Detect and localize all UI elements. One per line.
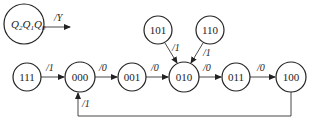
state-100: 100 xyxy=(276,62,306,92)
state-diagram: Q2Q1Q0 /Y /1 /0 /0 /1 /1 /0 /0 /1 111 00… xyxy=(0,0,311,122)
edge-label-011-100: /0 xyxy=(256,62,265,73)
state-110: 110 xyxy=(196,16,224,44)
state-label: 011 xyxy=(228,71,244,83)
edge-label-101-010: /1 xyxy=(171,42,180,53)
edge-label-001-010: /0 xyxy=(150,62,159,73)
edge-110-010 xyxy=(191,43,203,63)
state-label: 001 xyxy=(124,71,141,83)
state-label: 100 xyxy=(283,71,300,83)
state-label: 010 xyxy=(176,71,193,83)
legend-state-label: Q2Q1Q0 xyxy=(11,18,46,32)
edge-label-110-010: /1 xyxy=(202,47,211,58)
legend: Q2Q1Q0 /Y xyxy=(4,4,70,44)
edge-100-000 xyxy=(78,92,291,116)
state-011: 011 xyxy=(222,63,250,91)
state-000: 000 xyxy=(65,62,95,92)
edge-label-000-001: /0 xyxy=(98,62,107,73)
state-label: 000 xyxy=(72,71,89,83)
state-label: 111 xyxy=(19,71,35,83)
legend-output-label: /Y xyxy=(53,12,64,23)
state-101: 101 xyxy=(144,16,172,44)
state-label: 110 xyxy=(202,24,219,36)
edge-label-111-000: /1 xyxy=(45,62,54,73)
edge-label-100-000: /1 xyxy=(81,98,90,109)
edge-label-010-011: /0 xyxy=(202,62,211,73)
state-010: 010 xyxy=(169,62,199,92)
state-111: 111 xyxy=(13,63,41,91)
state-label: 101 xyxy=(150,24,167,36)
state-001: 001 xyxy=(118,63,146,91)
